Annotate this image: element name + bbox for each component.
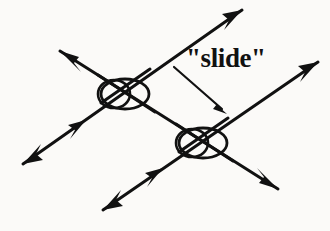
slide-arrow-head <box>210 99 227 114</box>
figure-canvas: "slide" <box>0 0 330 231</box>
slide-label: "slide" <box>186 45 266 72</box>
arrow-tip-lower-left <box>23 144 43 164</box>
arrow-tip-top-right <box>222 10 242 30</box>
slide-arrow <box>174 67 227 114</box>
lower-right-crossing-strand-a <box>179 118 228 152</box>
diagram-svg <box>0 0 330 231</box>
upper-left-crossing-strand-a <box>101 69 150 103</box>
